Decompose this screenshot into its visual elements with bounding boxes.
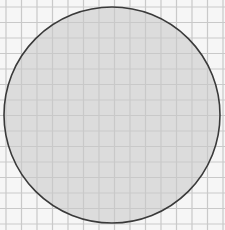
grid-circle-diagram bbox=[0, 0, 225, 230]
